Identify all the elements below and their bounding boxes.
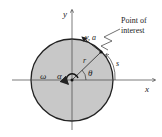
alpha-label: α (57, 71, 62, 81)
omega-label: ω (40, 71, 46, 81)
diagram-canvas: y x Point of interest v, a r θ s ω α (0, 0, 162, 137)
point-of-interest-label-line1: Point of (121, 16, 147, 25)
x-axis-label: x (144, 84, 149, 94)
y-axis-label: y (62, 9, 67, 19)
center-dot (71, 79, 74, 82)
arc-length-label: s (116, 59, 119, 68)
rotating-disk-diagram: y x Point of interest v, a r θ s ω α (0, 0, 162, 137)
leader-line (101, 29, 120, 50)
velocity-accel-label: v, a (85, 33, 96, 42)
point-of-interest-label-line2: interest (121, 26, 145, 35)
theta-label: θ (88, 68, 93, 78)
